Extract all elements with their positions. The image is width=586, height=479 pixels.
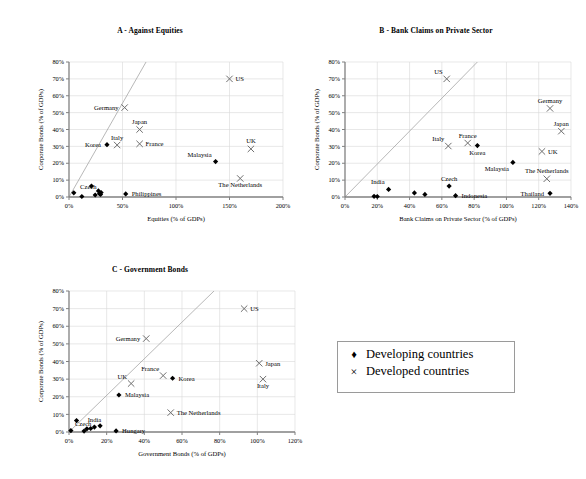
data-point-label: US [434, 68, 443, 75]
data-point-label: Hungary [122, 427, 146, 434]
y-tick-label: 10% [52, 411, 64, 418]
data-point-label: UK [246, 137, 256, 144]
data-point-label: France [459, 132, 477, 139]
y-tick-label: 0% [56, 428, 65, 435]
y-tick-label: 70% [328, 75, 340, 82]
legend-item-developing: ♦ Developing countries [346, 346, 504, 363]
x-tick-label: 100% [499, 202, 514, 209]
x-tick-label: 80% [214, 437, 226, 444]
data-point-label: Czech [441, 175, 458, 182]
y-tick-label: 20% [328, 159, 340, 166]
x-tick-label: 0% [65, 437, 74, 444]
data-point-cross [256, 360, 262, 366]
y-tick-label: 80% [328, 58, 340, 65]
legend-label-developing: Developing countries [362, 347, 473, 362]
x-tick-label: 100% [250, 437, 265, 444]
y-tick-label: 10% [328, 176, 340, 183]
x-tick-label: 150% [222, 202, 237, 209]
data-point-cross [143, 335, 149, 341]
data-point-label: Germany [538, 97, 563, 104]
y-tick-label: 20% [52, 159, 64, 166]
data-point-cross [160, 372, 166, 378]
legend-box: ♦ Developing countries × Developed count… [337, 341, 515, 393]
data-point-label: Germany [94, 104, 119, 111]
y-tick-label: 30% [328, 143, 340, 150]
y-tick-label: 40% [52, 126, 64, 133]
panel-c-plot: 0%10%20%30%40%50%60%70%80%0%20%40%60%80%… [0, 262, 320, 479]
data-point-label: Italy [432, 135, 445, 142]
x-tick-label: 40% [404, 202, 416, 209]
data-point-cross [114, 142, 120, 148]
x-tick-label: 50% [117, 202, 129, 209]
x-axis-title: Bank Claims on Private Sector (% of GDPs… [399, 215, 516, 223]
y-axis-title: Corporate Bonds (% of GDPs) [37, 89, 45, 170]
y-tick-label: 0% [56, 193, 65, 200]
data-point-label: Italy [111, 134, 124, 141]
data-point-label: India [88, 416, 102, 423]
y-axis-title: Corporate Bonds (% of GDPs) [313, 89, 321, 170]
data-point-label: Japan [132, 118, 148, 125]
data-point-diamond [547, 191, 552, 196]
cross-marker-icon: × [346, 366, 362, 378]
data-point-diamond [475, 143, 480, 148]
x-axis-title: Equities (% of GDPs) [147, 215, 205, 223]
data-point-cross [539, 148, 545, 154]
y-tick-label: 30% [52, 143, 64, 150]
y-tick-label: 60% [52, 322, 64, 329]
x-tick-label: 40% [139, 437, 151, 444]
y-tick-label: 60% [52, 92, 64, 99]
data-point-label: Korea [85, 141, 101, 148]
x-tick-label: 20% [372, 202, 384, 209]
data-point-label: Japan [265, 360, 281, 367]
data-point-label: Malaysia [187, 151, 211, 158]
x-tick-label: 20% [101, 437, 113, 444]
data-point-cross [547, 105, 553, 111]
panel-a-plot: 0%10%20%30%40%50%60%70%80%0%50%100%150%2… [0, 20, 300, 260]
diamond-marker-icon: ♦ [346, 349, 362, 360]
y-tick-label: 80% [52, 58, 64, 65]
data-point-diamond [113, 428, 118, 433]
panel-b-plot: 0%10%20%30%40%50%60%70%80%0%20%40%60%80%… [286, 20, 586, 260]
y-tick-label: 10% [52, 176, 64, 183]
x-tick-label: 0% [65, 202, 74, 209]
y-axis-title: Corporate Bonds (% of GDPs) [37, 321, 45, 402]
data-point-diamond [422, 192, 427, 197]
data-point-label: UK [548, 148, 558, 155]
data-point-diamond [510, 160, 515, 165]
data-point-diamond [412, 190, 417, 195]
data-point-label: Japan [554, 120, 570, 127]
data-point-diamond [447, 183, 452, 188]
x-tick-label: 80% [468, 202, 480, 209]
y-tick-label: 50% [52, 340, 64, 347]
data-point-label: UK [118, 373, 128, 380]
y-tick-label: 60% [328, 92, 340, 99]
panel-a-title: A - Against Equities [0, 26, 300, 35]
data-point-label: US [236, 75, 245, 82]
y-tick-label: 70% [52, 305, 64, 312]
x-tick-label: 100% [169, 202, 184, 209]
data-point-diamond [375, 194, 380, 199]
data-point-label: Malaysia [485, 165, 509, 172]
panel-b-container: B - Bank Claims on Private Sector 0%10%2… [286, 20, 586, 260]
data-point-cross [544, 176, 550, 182]
data-point-diamond [79, 194, 84, 199]
data-point-label: Italy [257, 382, 270, 389]
y-tick-label: 0% [332, 193, 341, 200]
data-point-label: France [141, 365, 159, 372]
data-point-diamond [97, 423, 102, 428]
x-tick-label: 120% [288, 437, 303, 444]
y-tick-label: 50% [52, 109, 64, 116]
y-tick-label: 50% [328, 109, 340, 116]
data-point-diamond [170, 376, 175, 381]
x-tick-label: 0% [341, 202, 350, 209]
y-tick-label: 40% [52, 358, 64, 365]
y-tick-label: 40% [328, 126, 340, 133]
legend-item-developed: × Developed countries [346, 363, 504, 380]
y-tick-label: 20% [52, 393, 64, 400]
data-point-label: Malaysia [125, 391, 149, 398]
x-tick-label: 120% [531, 202, 546, 209]
data-point-label: Thailand [521, 190, 545, 197]
data-point-cross [445, 143, 451, 149]
data-point-label: Philippines [132, 190, 162, 197]
x-tick-label: 140% [564, 202, 579, 209]
